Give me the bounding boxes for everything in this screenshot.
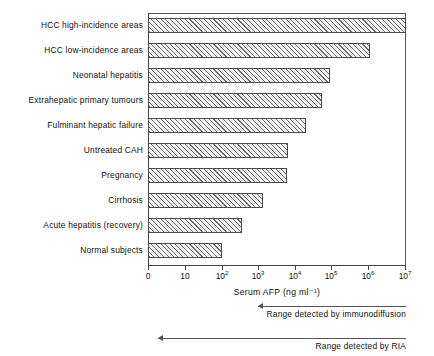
arrow-left-icon <box>158 335 163 341</box>
bar <box>148 143 288 158</box>
category-label: Untreated CAH <box>84 146 143 154</box>
arrow-left-icon <box>258 303 263 309</box>
category-label: Cirrhosis <box>108 196 143 204</box>
x-axis-tick <box>258 265 259 270</box>
x-tick-label: 107 <box>399 272 412 280</box>
x-tick-label-exponent: 3 <box>261 270 264 276</box>
x-tick-label-exponent: 7 <box>408 270 411 276</box>
category-label: HCC high-incidence areas <box>41 21 143 29</box>
category-label: Normal subjects <box>80 246 143 254</box>
x-axis-tick <box>331 265 332 270</box>
x-tick-label: 10 <box>180 272 189 280</box>
immunodiffusion-range-line <box>258 306 406 307</box>
bar <box>148 193 263 208</box>
x-tick-label-exponent: 2 <box>225 270 228 276</box>
x-tick-label: 103 <box>252 272 265 280</box>
ria-range-label: Range detected by RIA <box>316 342 406 350</box>
x-axis-tick <box>222 265 223 270</box>
x-tick-label-base: 10 <box>399 271 408 281</box>
x-tick-label-base: 10 <box>252 271 261 281</box>
bar <box>148 93 322 108</box>
bar <box>148 18 406 33</box>
x-tick-label: 104 <box>289 272 302 280</box>
chart-root: HCC high-incidence areas HCC low-inciden… <box>0 0 434 356</box>
x-tick-label-base: 10 <box>289 271 298 281</box>
x-tick-label-base: 10 <box>216 271 225 281</box>
category-label: Pregnancy <box>101 171 143 179</box>
x-tick-label: 0 <box>146 272 151 280</box>
bar <box>148 218 242 233</box>
ria-range-line <box>158 338 406 339</box>
category-label: Extrahepatic primary tumours <box>29 96 143 104</box>
x-tick-label-base: 0 <box>146 271 151 281</box>
category-label: HCC low-incidence areas <box>44 46 143 54</box>
bar <box>148 118 306 133</box>
x-tick-label-exponent: 5 <box>334 270 337 276</box>
plot-frame-top <box>148 13 406 14</box>
x-tick-label-exponent: 4 <box>298 270 301 276</box>
bar <box>148 243 222 258</box>
x-tick-label-base: 10 <box>180 271 189 281</box>
x-tick-label: 102 <box>216 272 229 280</box>
x-axis-tick <box>185 265 186 270</box>
bar <box>148 68 330 83</box>
bar <box>148 168 287 183</box>
x-axis-title: Serum AFP (ng ml⁻¹) <box>148 287 406 297</box>
x-tick-label: 105 <box>325 272 338 280</box>
x-axis-tick <box>368 265 369 270</box>
immunodiffusion-range-label: Range detected by immunodiffusion <box>267 310 406 318</box>
x-tick-label: 106 <box>362 272 375 280</box>
x-axis-tick <box>148 265 149 270</box>
bar <box>148 43 370 58</box>
category-label: Neonatal hepatitis <box>73 71 143 79</box>
x-tick-label-base: 10 <box>325 271 334 281</box>
category-label: Acute hepatitis (recovery) <box>43 221 143 229</box>
category-label: Fulminant hepatic failure <box>47 121 143 129</box>
x-tick-label-base: 10 <box>362 271 371 281</box>
x-axis-tick <box>295 265 296 270</box>
x-axis-tick <box>405 265 406 270</box>
plot-frame-right <box>405 13 406 265</box>
x-tick-label-exponent: 6 <box>371 270 374 276</box>
